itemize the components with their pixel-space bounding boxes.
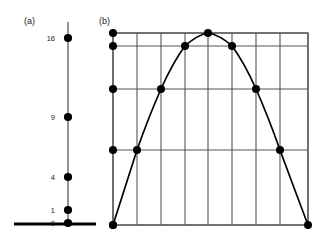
parabola-curve <box>113 33 308 225</box>
axis-value-marker <box>109 29 117 37</box>
curve-point-marker <box>181 42 189 50</box>
panel-a: (a)169410 <box>14 16 96 228</box>
panel-a-point-marker <box>64 206 72 214</box>
curve-point-marker <box>204 29 212 37</box>
curve-point-marker <box>252 85 260 93</box>
curve-point-marker <box>157 85 165 93</box>
axis-value-marker <box>109 146 117 154</box>
figure-container: (a)169410(b) <box>0 0 322 243</box>
grid-frame <box>113 33 308 225</box>
panel-a-point-marker <box>64 173 72 181</box>
panel-a-tick-label: 4 <box>51 173 55 182</box>
figure-canvas: (a)169410(b) <box>0 0 322 243</box>
panel-a-label: (a) <box>24 16 35 26</box>
axis-value-marker <box>109 42 117 50</box>
axis-value-marker <box>109 85 117 93</box>
panel-a-tick-label: 16 <box>47 34 55 43</box>
curve-point-marker <box>276 146 284 154</box>
panel-a-tick-label: 9 <box>51 113 55 122</box>
curve-point-marker <box>304 221 312 229</box>
panel-a-point-marker <box>64 34 72 42</box>
panel-b: (b) <box>99 16 312 229</box>
curve-point-marker <box>109 221 117 229</box>
panel-b-markers <box>109 29 312 229</box>
curve-point-marker <box>228 42 236 50</box>
panel-a-tick-label: 1 <box>51 206 55 215</box>
curve-point-marker <box>133 146 141 154</box>
panel-a-point-marker <box>64 113 72 121</box>
panel-a-point-marker <box>64 219 72 227</box>
panel-b-label: (b) <box>99 16 110 26</box>
panel-b-grid <box>113 33 308 225</box>
panel-a-tick-label: 0 <box>51 219 55 228</box>
